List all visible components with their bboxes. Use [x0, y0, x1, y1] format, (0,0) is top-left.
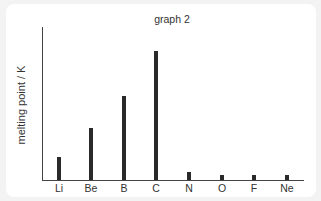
bar-be [89, 128, 93, 180]
x-tick-label: O [207, 182, 237, 194]
chart-title: graph 2 [0, 13, 321, 25]
x-tick-label: C [141, 182, 171, 194]
x-tick-label: B [109, 182, 139, 194]
bar-n [187, 172, 191, 180]
x-tick-label: Li [44, 182, 74, 194]
bar-f [252, 175, 256, 180]
bar-ne [285, 175, 289, 180]
x-tick-label: Be [76, 182, 106, 194]
bar-li [57, 157, 61, 180]
y-axis-line [42, 27, 43, 181]
x-tick-label: Ne [272, 182, 302, 194]
bar-o [220, 175, 224, 180]
chart-card [6, 4, 316, 197]
x-axis-line [42, 180, 304, 181]
bar-c [154, 51, 158, 180]
x-tick-label: N [174, 182, 204, 194]
x-tick-label: F [239, 182, 269, 194]
y-axis-label: melting point / K [15, 66, 27, 145]
bar-b [122, 96, 126, 180]
